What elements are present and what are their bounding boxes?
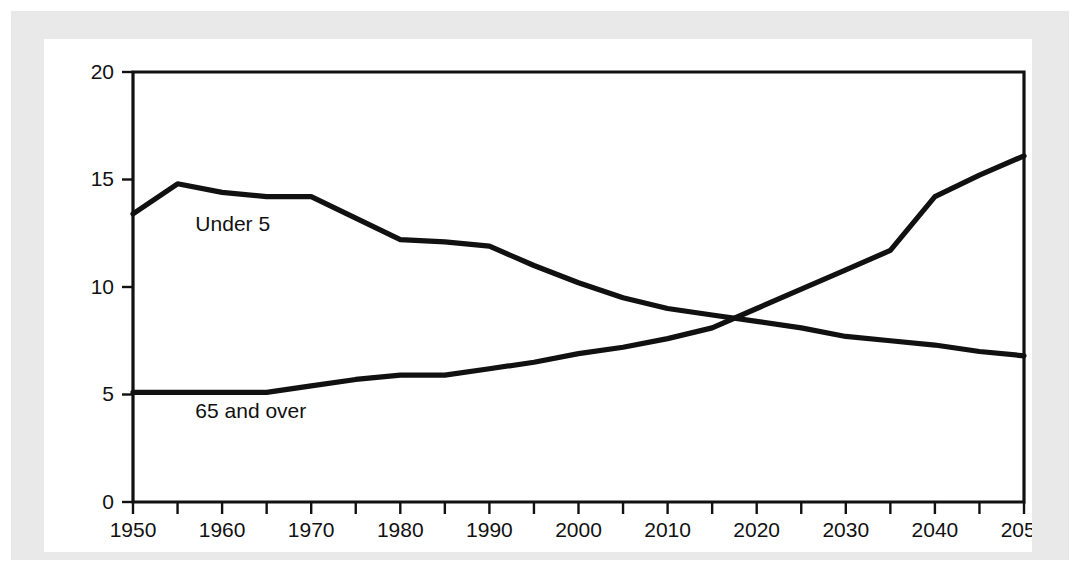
x-tick-label-1970: 1970 — [288, 518, 335, 541]
y-tick-label-0: 0 — [102, 490, 114, 513]
y-tick-label-10: 10 — [91, 275, 114, 298]
y-axis-ticks: 05101520 — [91, 60, 133, 513]
x-tick-label-1960: 1960 — [199, 518, 246, 541]
x-tick-label-2050: 2050 — [1001, 518, 1032, 541]
line-chart: 05101520 1950196019701980199020002010202… — [44, 39, 1032, 552]
scan-border-frame: 05101520 1950196019701980199020002010202… — [11, 11, 1069, 560]
x-tick-label-1950: 1950 — [110, 518, 157, 541]
series-line-65-and-over — [133, 156, 1024, 393]
x-tick-label-2030: 2030 — [822, 518, 869, 541]
figure-page-root: 05101520 1950196019701980199020002010202… — [0, 0, 1091, 579]
series-label-65-and-over: 65 and over — [195, 399, 306, 422]
x-tick-label-2010: 2010 — [644, 518, 691, 541]
chart-axes — [133, 72, 1024, 502]
series-line-under-5 — [133, 184, 1024, 356]
y-tick-label-5: 5 — [102, 382, 114, 405]
x-tick-label-2000: 2000 — [555, 518, 602, 541]
axis-lines — [133, 72, 1024, 502]
y-tick-label-20: 20 — [91, 60, 114, 83]
y-tick-label-15: 15 — [91, 167, 114, 190]
series-label-under-5: Under 5 — [195, 212, 270, 235]
x-tick-label-2040: 2040 — [912, 518, 959, 541]
x-axis-ticks: 1950196019701980199020002010202020302040… — [110, 502, 1032, 541]
x-tick-label-1990: 1990 — [466, 518, 513, 541]
chart-canvas: 05101520 1950196019701980199020002010202… — [44, 39, 1032, 552]
x-tick-label-2020: 2020 — [733, 518, 780, 541]
x-tick-label-1980: 1980 — [377, 518, 424, 541]
data-series-group — [133, 156, 1024, 393]
